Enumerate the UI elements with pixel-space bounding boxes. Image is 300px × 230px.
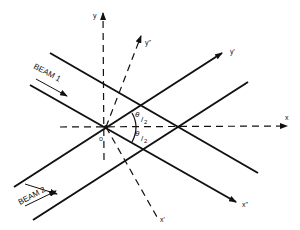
- x-prime-label: x': [160, 216, 165, 223]
- origin-label: o: [99, 135, 103, 142]
- x-prime-axis: [106, 127, 157, 217]
- x-axis: [60, 126, 287, 127]
- y-double-prime-label: y'': [145, 39, 151, 47]
- x-axis-label: x: [285, 114, 289, 121]
- y-axis-label: y: [93, 12, 97, 20]
- upper-half-angle-two: 2: [144, 119, 148, 125]
- lower-half-angle-theta: θ: [135, 129, 140, 138]
- y-axis: [103, 13, 104, 160]
- beam-crossing-diagram: BEAM 1 BEAM 2 o x y y' y'' x' x'' θ / 2 …: [0, 0, 300, 230]
- beam1-label: BEAM 1: [32, 62, 63, 84]
- origin-point: [104, 125, 108, 129]
- lower-half-angle-two: 2: [144, 138, 148, 144]
- beam2-label: BEAM 2: [17, 185, 48, 207]
- beam2-lower-edge: [33, 82, 248, 220]
- upper-half-angle-theta: θ: [135, 110, 140, 119]
- beam1-direction-arrow: [36, 79, 67, 96]
- y-prime-label: y': [230, 48, 235, 56]
- x-double-prime-label: x'': [242, 201, 248, 208]
